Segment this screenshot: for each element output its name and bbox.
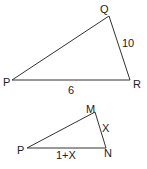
side-label-mn: X (102, 122, 110, 134)
vertex-label-p-large: P (3, 76, 10, 88)
vertex-label-n: N (104, 147, 112, 159)
vertex-label-q: Q (100, 3, 109, 15)
triangle-pmn (27, 112, 106, 148)
side-label-pr: 6 (68, 84, 74, 96)
vertex-label-m: M (86, 103, 95, 115)
side-label-qr: 10 (122, 37, 134, 49)
vertex-label-r: R (133, 78, 141, 90)
vertex-label-p-small: P (17, 144, 24, 156)
triangle-pqr (12, 16, 130, 80)
similar-triangles-diagram: Q P R 10 6 M P N X 1+X (0, 0, 147, 169)
side-label-pn: 1+X (56, 149, 77, 161)
